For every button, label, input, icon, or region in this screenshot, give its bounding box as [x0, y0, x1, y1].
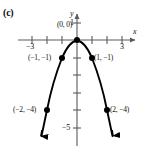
- point-label-neg1-neg1: (−1, −1): [28, 54, 51, 62]
- plot-canvas: [0, 0, 149, 148]
- point-label-neg2-neg4: (−2, −4): [13, 106, 36, 114]
- x-axis-label: x: [133, 28, 136, 36]
- data-point-0-0: [74, 37, 80, 43]
- data-point-m2-m4: [44, 107, 50, 113]
- point-label-origin: (0, 0): [57, 21, 72, 29]
- parabola-figure: (c): [0, 0, 149, 148]
- data-point-m1-m1: [59, 55, 65, 61]
- point-label-2-neg4: (2, −4): [110, 106, 129, 114]
- x-tick-label-neg3: −3: [26, 43, 34, 51]
- y-axis-label: y: [70, 10, 73, 18]
- x-tick-label-3: 3: [120, 43, 124, 51]
- y-tick-label-neg5: −5: [62, 124, 70, 132]
- y-axis: [73, 14, 81, 146]
- point-label-1-neg1: (1, −1): [94, 54, 113, 62]
